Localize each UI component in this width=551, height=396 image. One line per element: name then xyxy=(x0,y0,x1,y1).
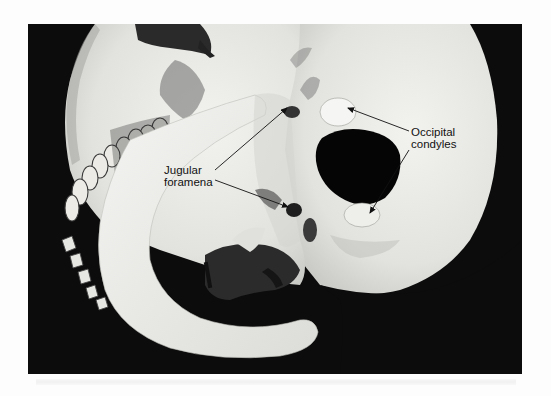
label-occipital-condyles: Occipital condyles xyxy=(411,126,456,150)
page-show-through xyxy=(36,379,516,385)
skull-photograph xyxy=(28,24,522,374)
arrow-jugular-foramen-lower xyxy=(215,180,288,207)
arrow-occipital-condyle-upper xyxy=(348,108,409,131)
label-jugular-foramena: Jugular foramena xyxy=(164,164,213,188)
figure-page: Occipital condyles Jugular foramena xyxy=(0,0,551,396)
label-jugular-line2: foramena xyxy=(164,176,213,188)
arrow-jugular-foramen-upper xyxy=(215,108,287,170)
label-occipital-line2: condyles xyxy=(411,138,456,150)
arrow-occipital-condyle-lower xyxy=(370,150,409,213)
label-jugular-line1: Jugular xyxy=(164,164,213,176)
annotation-arrows xyxy=(28,24,522,374)
label-occipital-line1: Occipital xyxy=(411,126,456,138)
